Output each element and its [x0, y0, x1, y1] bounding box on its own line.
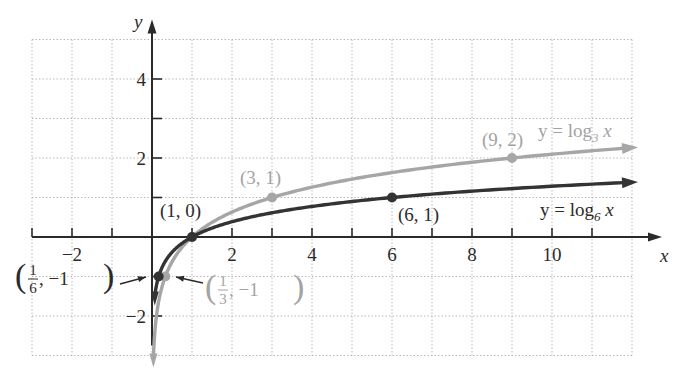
x-axis-arrow-icon [648, 233, 662, 242]
point-label: (9, 2) [482, 129, 523, 151]
curve-label-x: x [601, 199, 615, 220]
point-label: (1, 0) [160, 200, 201, 222]
fraction-rest: , −1 [39, 268, 69, 289]
x-tick-label: 4 [307, 244, 317, 265]
curve-label-y: y = log [540, 199, 594, 220]
fraction-numerator: 1 [29, 262, 37, 278]
y-axis-label: y [132, 11, 143, 32]
log-chart: x y −224681042−2 y = log3 xy = log6 x(1,… [0, 0, 690, 373]
fraction-point-label: (13, −1) [205, 268, 304, 307]
grid [32, 40, 632, 356]
fraction-numerator: 1 [219, 273, 227, 289]
x-tick-label: 10 [543, 244, 562, 265]
left-paren: ( [15, 257, 26, 295]
right-paren: ) [103, 257, 114, 295]
right-paren: ) [293, 268, 304, 306]
y-tick-label: −2 [126, 306, 146, 327]
curve-log3-arrow-icon [622, 143, 638, 154]
y-tick-label: 4 [137, 69, 147, 90]
curve-label-x: x [599, 120, 613, 141]
point-log6 [187, 232, 197, 242]
point-label: (3, 1) [240, 167, 281, 189]
curve-label-log6: y = log6 x [540, 199, 614, 224]
x-tick-label: −2 [62, 244, 82, 265]
y-tick-label: 2 [137, 148, 147, 169]
x-tick-label: 2 [227, 244, 237, 265]
fraction-rest: , −1 [229, 279, 259, 300]
point-label: (6, 1) [398, 204, 439, 226]
y-axis-arrow-icon [148, 20, 157, 34]
point-log3 [267, 193, 277, 203]
x-tick-label: 8 [467, 244, 477, 265]
fraction-denominator: 6 [29, 280, 37, 296]
pointer-arrow-one-sixth-head-icon [137, 276, 146, 282]
x-tick-label: 6 [387, 244, 397, 265]
curve-label-log3: y = log3 x [538, 120, 612, 145]
curve-label-y: y = log [538, 120, 592, 141]
curve-log3-bottom-arrow-icon [149, 354, 157, 368]
curve-log6-arrow-icon [622, 177, 638, 188]
point-log6 [154, 272, 164, 282]
fraction-denominator: 3 [219, 291, 227, 307]
annotations: y = log3 xy = log6 x(1, 0)(3, 1)(9, 2)(6… [15, 120, 614, 307]
point-log3 [507, 153, 517, 163]
x-axis-label: x [659, 245, 669, 266]
left-paren: ( [205, 268, 216, 306]
point-log6 [387, 193, 397, 203]
